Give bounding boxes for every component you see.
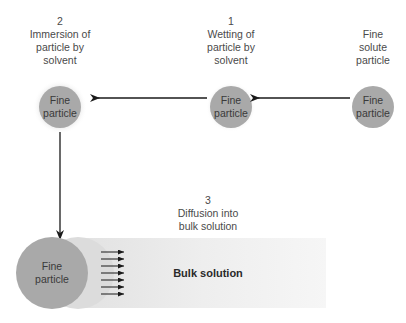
svg-text:Fine: Fine: [50, 94, 71, 106]
svg-text:bulk solution: bulk solution: [179, 220, 238, 232]
svg-text:Fine: Fine: [42, 260, 63, 272]
bulk-solution-label: Bulk solution: [173, 267, 243, 279]
particle-immersed: Fine particle: [33, 80, 87, 134]
svg-text:3: 3: [205, 194, 211, 206]
svg-text:1: 1: [228, 15, 234, 27]
particle-start: Fine particle: [352, 86, 394, 128]
svg-text:particle by: particle by: [207, 41, 256, 53]
svg-text:particle: particle: [356, 54, 390, 66]
svg-text:particle: particle: [356, 107, 390, 119]
svg-text:particle: particle: [43, 107, 77, 119]
svg-text:Fine: Fine: [363, 28, 384, 40]
particle-dissolving: Fine particle: [16, 237, 88, 309]
svg-text:particle by: particle by: [36, 41, 85, 53]
svg-text:particle: particle: [35, 273, 69, 285]
svg-text:Immersion of: Immersion of: [30, 28, 91, 40]
svg-text:solvent: solvent: [43, 54, 76, 66]
start-label: Fine solute particle: [356, 28, 390, 66]
stage-1-label: 1 Wetting of particle by solvent: [207, 15, 256, 66]
svg-text:solute: solute: [359, 41, 387, 53]
particle-wetted: Fine particle: [206, 82, 256, 132]
svg-text:solvent: solvent: [214, 54, 247, 66]
svg-text:Fine: Fine: [363, 94, 384, 106]
svg-text:2: 2: [57, 15, 63, 27]
svg-text:Fine: Fine: [221, 94, 242, 106]
stage-2-label: 2 Immersion of particle by solvent: [30, 15, 91, 66]
svg-text:particle: particle: [214, 107, 248, 119]
svg-text:Wetting of: Wetting of: [207, 28, 254, 40]
stage-3-label: 3 Diffusion into bulk solution: [178, 194, 239, 232]
svg-text:Diffusion into: Diffusion into: [178, 207, 239, 219]
dissolution-diagram: 2 Immersion of particle by solvent 1 Wet…: [0, 0, 406, 323]
